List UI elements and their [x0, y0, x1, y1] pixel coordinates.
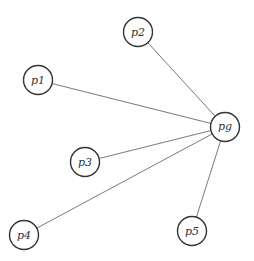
node-p2: p2 [124, 18, 153, 47]
edge-p1-pg [38, 80, 225, 127]
node-pg: pg [211, 113, 240, 142]
edges [24, 32, 225, 235]
node-p5: p5 [178, 217, 207, 246]
node-p1: p1 [24, 66, 53, 95]
node-label-p5: p5 [185, 225, 199, 238]
edge-p5-pg [192, 127, 225, 231]
edge-p2-pg [138, 32, 225, 127]
nodes: p1 p2 pg p3 p4 p5 [10, 18, 240, 250]
node-p3: p3 [71, 148, 100, 177]
node-label-p3: p3 [78, 156, 92, 169]
node-label-pg: pg [218, 120, 232, 133]
graph-diagram: p1 p2 pg p3 p4 p5 [0, 0, 254, 261]
node-label-p1: p1 [31, 74, 45, 87]
node-label-p2: p2 [131, 26, 145, 39]
node-p4: p4 [10, 221, 39, 250]
edge-p3-pg [85, 127, 225, 162]
node-label-p4: p4 [17, 229, 31, 242]
